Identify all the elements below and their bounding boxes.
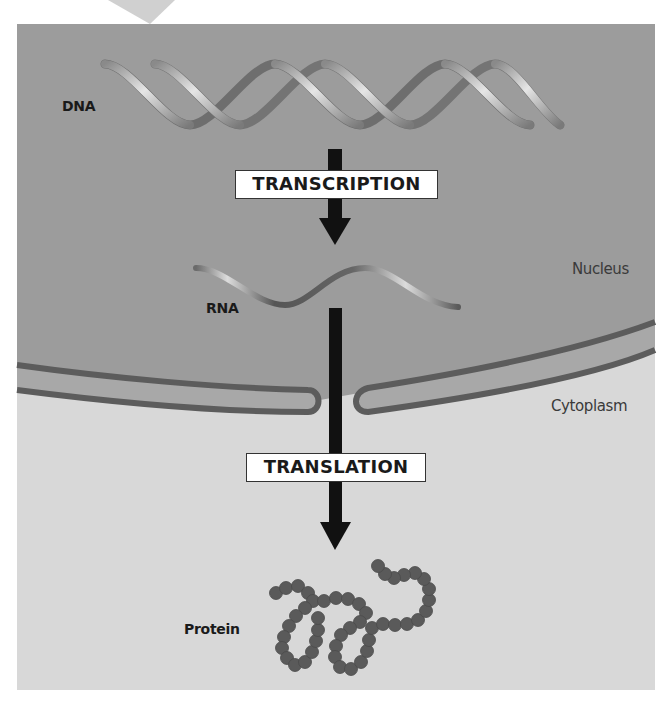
dna-label: DNA [62, 98, 95, 114]
transcription-label-box: TRANSCRIPTION [235, 170, 438, 199]
protein-label: Protein [184, 621, 240, 637]
rna-label: RNA [206, 300, 238, 316]
central-dogma-diagram: DNA RNA Protein Nucleus Cytoplasm TRANSC… [0, 0, 671, 703]
pointer-triangle [108, 0, 175, 24]
nucleus-label: Nucleus [572, 260, 629, 278]
diagram-canvas [0, 0, 671, 703]
cytoplasm-label: Cytoplasm [551, 397, 627, 415]
translation-label-box: TRANSLATION [246, 453, 426, 482]
